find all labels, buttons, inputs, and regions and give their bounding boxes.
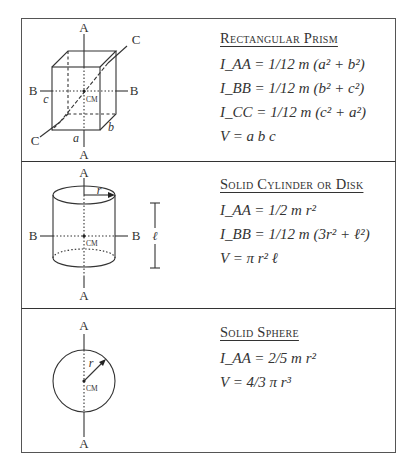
- formula: V = a b c: [220, 124, 366, 148]
- cylinder-cm-dot: [82, 234, 85, 237]
- cylinder-bottom-back: [53, 249, 115, 258]
- prism-axis-label-a-bottom: A: [79, 147, 89, 162]
- formula: I_AA = 1/12 m (a² + b²): [220, 52, 366, 76]
- cylinder-dim-length: ℓ: [153, 229, 158, 243]
- cylinder-axis-label-a-bottom: A: [79, 288, 89, 303]
- prism-axis-label-b-right: B: [130, 83, 139, 98]
- prism-dim-a: a: [73, 131, 79, 145]
- prism-axis-label-b-left: B: [29, 83, 38, 98]
- cylinder-dim-r: r: [97, 183, 102, 197]
- prism-formulas: Rectangular Prism I_AA = 1/12 m (a² + b²…: [220, 30, 366, 148]
- cylinder-formulas: Solid Cylinder or Disk I_AA = 1/2 m r² I…: [220, 176, 370, 270]
- prism-axis-label-c-bottom: C: [31, 133, 40, 148]
- sphere-cm-dot: [82, 379, 85, 382]
- section-title: Rectangular Prism: [220, 30, 366, 47]
- formula: I_BB = 1/12 m (b² + c²): [220, 76, 366, 100]
- formula: I_BB = 1/12 m (3r² + ℓ²): [220, 222, 370, 246]
- prism-cm-dot: [82, 89, 85, 92]
- sphere-radius-arrow: [84, 362, 103, 381]
- cylinder-axis-label-b-right: B: [132, 228, 141, 243]
- section-title: Solid Cylinder or Disk: [220, 176, 370, 193]
- sphere-axis-label-a-top: A: [79, 318, 89, 333]
- prism-axis-label-a-top: A: [79, 20, 89, 35]
- formula: V = 4/3 π r³: [220, 370, 316, 394]
- formula: I_CC = 1/12 m (c² + a²): [220, 100, 366, 124]
- sphere-formulas: Solid Sphere I_AA = 2/5 m r² V = 4/3 π r…: [220, 324, 316, 394]
- sphere-cm-label: CM: [86, 384, 98, 393]
- section-title: Solid Sphere: [220, 324, 316, 341]
- prism-dim-b: b: [108, 120, 114, 134]
- prism-dim-c: c: [43, 92, 49, 106]
- cylinder-axis-label-a-top: A: [79, 165, 89, 180]
- cylinder-axis-label-b-left: B: [29, 228, 38, 243]
- cylinder-cm-label: CM: [86, 239, 98, 248]
- axis-c-line: [108, 46, 127, 63]
- formula: V = π r² ℓ: [220, 246, 370, 270]
- prism-cm-label: CM: [86, 95, 98, 104]
- formula: I_AA = 2/5 m r²: [220, 346, 316, 370]
- formula: I_AA = 1/2 m r²: [220, 198, 370, 222]
- sphere-axis-label-a-bottom: A: [79, 436, 89, 451]
- sphere-dim-r: r: [89, 356, 94, 370]
- sphere-diagram: [53, 334, 115, 437]
- prism-axis-label-c-top: C: [132, 32, 141, 47]
- prism-diagram: [40, 34, 128, 147]
